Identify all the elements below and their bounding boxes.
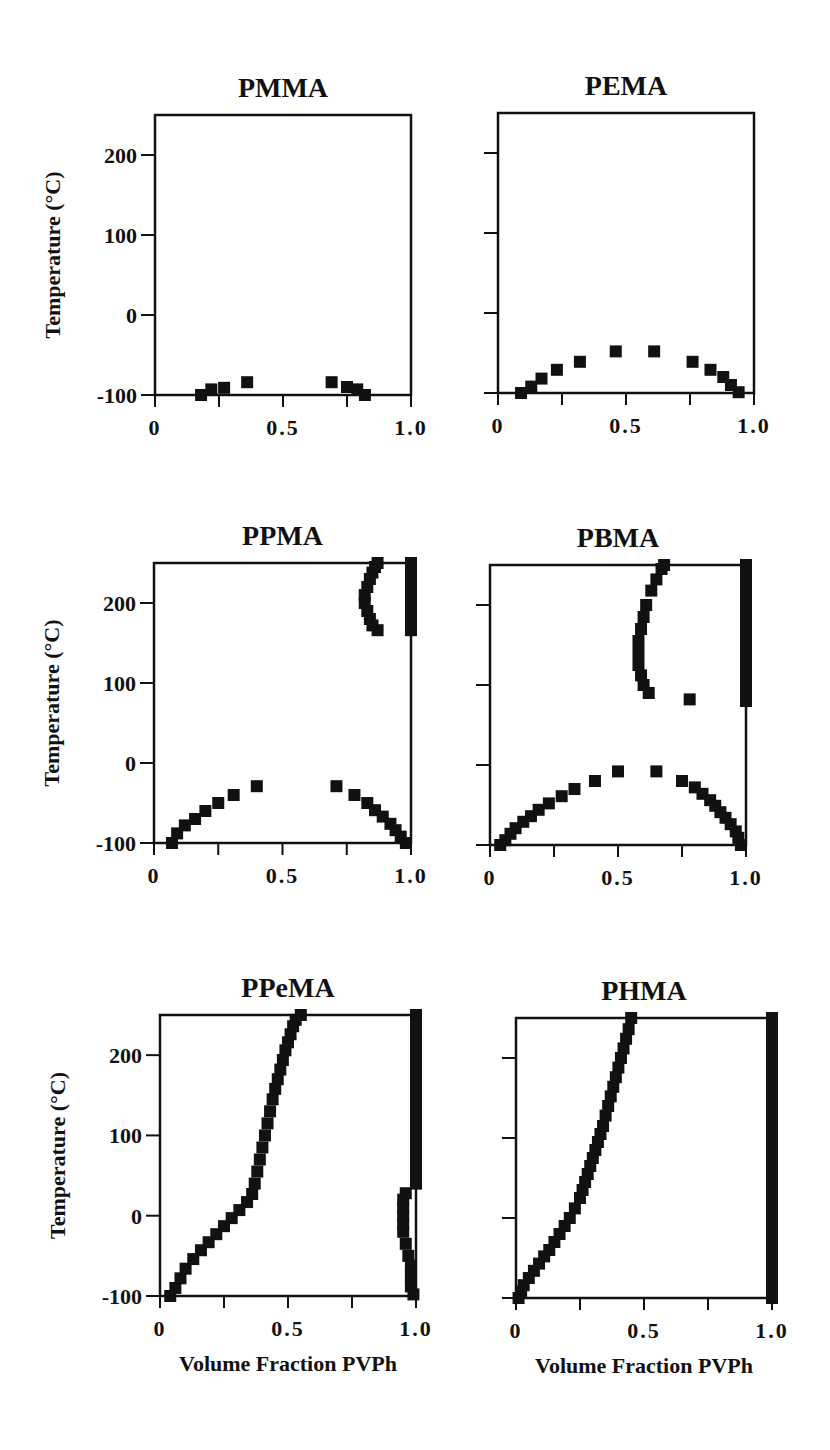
data-point-marker xyxy=(262,1117,274,1129)
data-point-marker xyxy=(684,693,696,705)
x-tick-label: 1.0 xyxy=(394,415,428,440)
x-tick-label: 1.0 xyxy=(755,1318,789,1343)
data-point-marker xyxy=(179,819,191,831)
x-tick-label: 0 xyxy=(492,413,505,438)
x-tick-label: 0 xyxy=(148,863,161,888)
series-lower-binodal xyxy=(494,765,747,851)
data-point-marker xyxy=(228,789,240,801)
series-left-binodal xyxy=(164,1009,307,1302)
data-point-marker xyxy=(199,805,211,817)
data-point-marker xyxy=(241,376,253,388)
y-axis-label: Temperature (°C) xyxy=(45,1072,70,1239)
data-point-marker xyxy=(359,389,371,401)
panel-title: PPMA xyxy=(242,520,324,551)
data-point-marker xyxy=(623,1023,635,1035)
data-point-marker xyxy=(400,837,412,849)
x-tick-label: 0.5 xyxy=(627,1318,661,1343)
data-point-marker xyxy=(405,624,417,636)
data-point-marker xyxy=(405,613,417,625)
y-tick-label: -100 xyxy=(102,1284,142,1309)
data-point-marker xyxy=(348,789,360,801)
x-tick-label: 0 xyxy=(154,1316,167,1341)
plot-frame xyxy=(155,115,411,395)
x-tick-label: 0 xyxy=(510,1318,523,1343)
data-point-marker xyxy=(568,783,580,795)
panel-pema: PEMA00.51.0 xyxy=(484,70,771,438)
x-tick-label: 0.5 xyxy=(601,865,635,890)
x-tick-label: 0.5 xyxy=(609,413,643,438)
series-left-binodal xyxy=(513,1012,638,1304)
data-point-marker xyxy=(733,386,745,398)
data-point-marker xyxy=(259,1129,271,1141)
data-point-marker xyxy=(330,780,342,792)
data-point-marker xyxy=(645,585,657,597)
data-point-marker xyxy=(256,1141,268,1153)
data-point-marker xyxy=(625,1012,637,1024)
data-point-marker xyxy=(610,345,622,357)
data-point-marker xyxy=(249,1178,261,1190)
y-tick-label: 200 xyxy=(103,591,136,616)
data-point-marker xyxy=(543,797,555,809)
y-tick-label: 200 xyxy=(104,143,137,168)
data-point-marker xyxy=(638,611,650,623)
x-tick-label: 1.0 xyxy=(394,863,428,888)
series-right-binodal xyxy=(766,1012,778,1304)
y-tick-label: 100 xyxy=(103,671,136,696)
data-point-marker xyxy=(676,775,688,787)
data-point-marker xyxy=(648,345,660,357)
panel-title: PMMA xyxy=(238,72,329,103)
data-point-marker xyxy=(597,1120,609,1132)
panel-phma: PHMA00.51.0Volume Fraction PVPh xyxy=(502,975,789,1378)
data-point-marker xyxy=(656,563,668,575)
data-point-marker xyxy=(264,1105,276,1117)
data-point-marker xyxy=(632,659,644,671)
series-upper-binodal-right xyxy=(405,557,417,636)
data-point-marker xyxy=(405,1259,417,1271)
data-point-marker xyxy=(251,780,263,792)
data-point-marker xyxy=(569,1202,581,1214)
y-axis-label: Temperature (°C) xyxy=(40,171,65,338)
data-point-marker xyxy=(650,573,662,585)
x-tick-label: 1.0 xyxy=(729,865,763,890)
data-point-marker xyxy=(205,383,217,395)
data-point-marker xyxy=(405,1270,417,1282)
x-tick-label: 1.0 xyxy=(399,1316,433,1341)
data-point-marker xyxy=(589,775,601,787)
data-point-marker xyxy=(515,387,527,399)
data-point-marker xyxy=(704,364,716,376)
data-point-marker xyxy=(267,1093,279,1105)
series-right-binodal-upper xyxy=(410,1009,422,1190)
x-axis-label: Volume Fraction PVPh xyxy=(535,1353,753,1378)
data-point-marker xyxy=(372,624,384,636)
y-tick-label: -100 xyxy=(96,831,136,856)
x-tick-label: 0.5 xyxy=(266,415,300,440)
data-point-marker xyxy=(326,376,338,388)
data-point-marker xyxy=(740,695,752,707)
data-point-marker xyxy=(612,765,624,777)
panels-container: PMMA-100010020000.51.0Temperature (°C)PE… xyxy=(39,70,789,1378)
data-point-marker xyxy=(410,1178,422,1190)
data-point-marker xyxy=(212,797,224,809)
panel-title: PBMA xyxy=(577,522,660,553)
data-point-marker xyxy=(632,635,644,647)
data-point-marker xyxy=(687,356,699,368)
plot-frame xyxy=(498,113,754,393)
x-tick-label: 0 xyxy=(484,865,497,890)
data-point-marker xyxy=(643,687,655,699)
y-tick-label: 0 xyxy=(126,303,137,328)
x-tick-label: 0.5 xyxy=(266,863,300,888)
panel-pmma: PMMA-100010020000.51.0Temperature (°C) xyxy=(40,72,428,440)
data-point-marker xyxy=(295,1009,307,1021)
panel-pbma: PBMA00.51.0 xyxy=(476,522,763,890)
x-tick-label: 1.0 xyxy=(737,413,771,438)
x-axis-label: Volume Fraction PVPh xyxy=(179,1351,397,1376)
data-point-marker xyxy=(650,765,662,777)
data-point-marker xyxy=(635,623,647,635)
y-tick-label: 200 xyxy=(109,1043,142,1068)
series-lower-binodal xyxy=(166,780,412,849)
panel-ppema: PPeMA-100010020000.51.0Temperature (°C)V… xyxy=(45,972,433,1376)
series-upper-binodal-left xyxy=(359,557,384,636)
data-point-marker xyxy=(407,1288,419,1300)
y-tick-label: 0 xyxy=(131,1204,142,1229)
data-point-marker xyxy=(766,1292,778,1304)
